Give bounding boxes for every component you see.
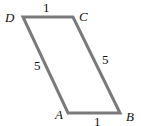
side-label-ab: 1: [94, 114, 101, 126]
vertex-label-b: B: [126, 109, 134, 124]
side-label-da: 5: [34, 58, 41, 73]
side-label-dc: 1: [43, 0, 50, 15]
parallelogram-diagram: D C A B 1 5 5 1: [0, 0, 141, 126]
diagram-canvas: D C A B 1 5 5 1: [0, 0, 141, 126]
vertex-label-d: D: [4, 10, 15, 25]
vertex-label-c: C: [79, 9, 88, 24]
side-label-cb: 5: [102, 52, 109, 67]
vertex-label-a: A: [54, 107, 63, 122]
